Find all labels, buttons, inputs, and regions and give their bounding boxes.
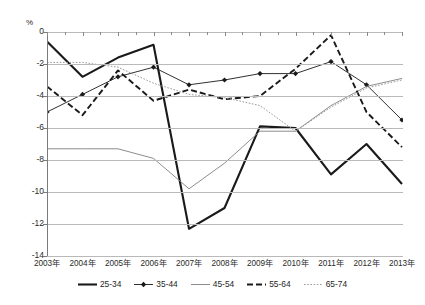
y-axis-tick-label: -2 (4, 59, 44, 68)
x-axis-tick-label: 2012年 (353, 259, 379, 269)
x-axis-minor-tick (171, 32, 172, 35)
chart-footnote (2, 296, 425, 305)
x-axis-minor-tick (242, 32, 243, 35)
legend-item-65-74[interactable]: 65-74 (304, 279, 347, 289)
x-axis-tick (402, 32, 403, 36)
y-axis-tick (43, 192, 47, 193)
y-axis-line (47, 32, 48, 256)
x-axis-tick-label: 2006年 (140, 259, 166, 269)
x-axis-tick-label: 2004年 (69, 259, 95, 269)
x-axis-minor-tick (136, 32, 137, 35)
legend-item-45-54[interactable]: 45-54 (191, 279, 234, 289)
gridline (47, 160, 403, 161)
legend-item-55-64[interactable]: 55-64 (247, 279, 290, 289)
legend-swatch-icon (191, 280, 210, 289)
legend-item-35-44[interactable]: 35-44 (134, 279, 177, 289)
legend-swatch-icon (247, 280, 266, 289)
y-axis-tick (43, 224, 47, 225)
series-line-25-34 (47, 42, 402, 229)
x-axis-tick (189, 32, 190, 36)
legend-label: 65-74 (326, 279, 347, 289)
series-marker-35-44 (151, 65, 156, 70)
x-axis-tick (83, 32, 84, 36)
x-axis-tick-label: 2010年 (282, 259, 308, 269)
legend-swatch-icon (134, 280, 153, 289)
gridline (47, 224, 403, 225)
gridline (47, 96, 403, 97)
x-axis-minor-tick (207, 32, 208, 35)
gridline (47, 128, 403, 129)
gridline (47, 64, 403, 65)
x-axis-minor-tick (100, 32, 101, 35)
x-axis-tick-label: 2013年 (389, 259, 415, 269)
y-axis-tick (43, 64, 47, 65)
gridline (47, 192, 403, 193)
x-axis-minor-tick (65, 32, 66, 35)
x-axis-tick-label: 2003年 (34, 259, 60, 269)
series-marker-35-44 (222, 77, 227, 82)
line-chart: % 0-2-4-6-8-10-12-14 2003年2004年2005年2006… (0, 0, 425, 305)
y-axis-tick-label: -4 (4, 91, 44, 100)
x-axis-tick-label: 2011年 (318, 259, 344, 269)
x-axis-minor-tick (313, 32, 314, 35)
legend-item-25-34[interactable]: 25-34 (78, 279, 121, 289)
legend-swatch-icon (78, 280, 97, 289)
x-axis-minor-tick (278, 32, 279, 35)
legend-label: 45-54 (213, 279, 234, 289)
series-marker-35-44 (186, 82, 191, 87)
x-axis-minor-tick (384, 32, 385, 35)
x-axis-tick (367, 32, 368, 36)
x-axis-tick (296, 32, 297, 36)
plot-area (47, 32, 403, 256)
x-axis-tick-label: 2009年 (247, 259, 273, 269)
legend-swatch-icon (304, 280, 323, 289)
y-axis-tick (43, 256, 47, 257)
series-marker-35-44 (293, 71, 298, 76)
y-axis-tick-label: -12 (4, 219, 44, 228)
y-axis-tick-label: -6 (4, 123, 44, 132)
series-marker-35-44 (257, 71, 262, 76)
gridline (47, 256, 403, 257)
x-axis-tick (154, 32, 155, 36)
y-axis-tick-label: -8 (4, 155, 44, 164)
x-axis-tick-label: 2007年 (176, 259, 202, 269)
legend-label: 35-44 (156, 279, 177, 289)
series-line-45-54 (47, 78, 402, 188)
x-axis-tick (118, 32, 119, 36)
y-axis-tick-label: -10 (4, 187, 44, 196)
x-axis-labels: 2003年2004年2005年2006年2007年2008年2009年2010年… (47, 259, 403, 273)
legend-label: 25-34 (100, 279, 121, 289)
x-axis-tick (260, 32, 261, 36)
x-axis-tick-label: 2008年 (211, 259, 237, 269)
x-axis-tick (47, 32, 48, 36)
series-line-55-64 (47, 35, 402, 147)
x-axis-minor-tick (349, 32, 350, 35)
x-axis-tick-label: 2005年 (105, 259, 131, 269)
x-axis-tick (331, 32, 332, 36)
x-axis-tick (225, 32, 226, 36)
series-line-35-44 (47, 62, 402, 120)
series-marker-35-44 (115, 74, 120, 79)
y-axis-tick (43, 128, 47, 129)
legend-label: 55-64 (269, 279, 290, 289)
y-axis-tick (43, 160, 47, 161)
top-axis-ticks (47, 32, 403, 36)
y-axis-tick (43, 96, 47, 97)
y-axis-tick-label: 0 (4, 27, 44, 36)
chart-legend: 25-3435-4445-5455-6465-74 (0, 277, 425, 291)
series-layer (47, 32, 403, 256)
